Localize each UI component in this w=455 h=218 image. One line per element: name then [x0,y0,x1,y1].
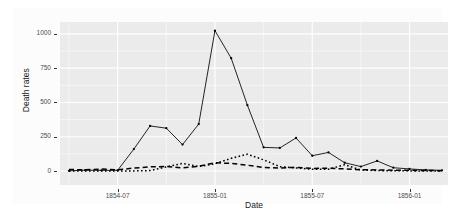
y-tick-label: 500 [40,99,51,106]
x-tick-mark [312,189,313,192]
data-point [165,127,167,129]
y-axis-tick-labels: 02505007501000 [13,22,57,185]
y-tick-mark [54,171,57,172]
data-point [262,146,264,148]
x-tick-label: 1854-07 [106,193,130,200]
x-axis-title: Date [60,201,448,210]
x-tick-label: 1855-01 [203,193,227,200]
series-line-2 [69,163,442,171]
plot-panel [60,22,448,185]
data-point [360,165,362,167]
chart-figure: 02505007501000 1854-071855-011855-071856… [0,0,455,218]
data-point [376,160,378,162]
series-line-0 [69,31,442,171]
data-point [344,162,346,164]
data-point [149,125,151,127]
data-point [311,155,313,157]
data-point [327,151,329,153]
data-point [230,57,232,59]
x-tick-mark [410,189,411,192]
x-tick-label: 1855-07 [300,193,324,200]
plot-frame: 02505007501000 1854-071855-011855-071856… [13,8,442,204]
y-tick-label: 0 [47,168,51,175]
y-tick-label: 250 [40,133,51,140]
series-line-1 [69,154,442,171]
data-point [295,137,297,139]
y-tick-mark [54,137,57,138]
y-tick-label: 750 [40,65,51,72]
data-series-layer [60,22,448,185]
data-point [279,147,281,149]
y-axis-title: Death rates [22,55,31,125]
data-point [392,167,394,169]
y-tick-label: 1000 [37,30,51,37]
data-point [181,143,183,145]
data-point [246,104,248,106]
x-tick-mark [118,189,119,192]
y-tick-mark [54,102,57,103]
data-point [214,30,216,32]
y-tick-mark [54,34,57,35]
x-tick-label: 1856-01 [398,193,422,200]
data-point [133,148,135,150]
data-point [198,123,200,125]
x-tick-mark [215,189,216,192]
y-tick-mark [54,68,57,69]
